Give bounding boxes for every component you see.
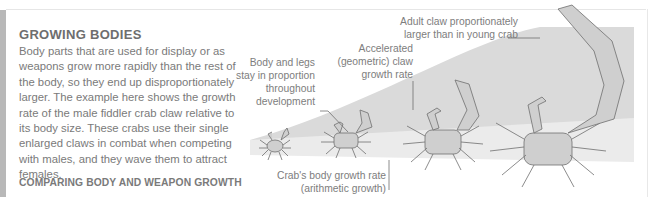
label-line: Accelerated [337, 42, 413, 55]
label-body-growth: Crab's body growth rate (arithmetic grow… [277, 169, 386, 195]
crab-growth-diagram [0, 0, 656, 197]
label-line: Crab's body growth rate [277, 169, 386, 182]
label-line: throughout [236, 82, 315, 95]
label-adult-claw: Adult claw proportionately larger than i… [400, 15, 518, 41]
label-line: development [236, 95, 315, 108]
label-accelerated-growth: Accelerated (geometric) claw growth rate [337, 42, 413, 81]
label-line: stay in proportion [236, 69, 315, 82]
label-line: growth rate [337, 68, 413, 81]
label-line: Adult claw proportionately [400, 15, 518, 28]
label-line: (arithmetic growth) [277, 182, 386, 195]
label-line: larger than in young crab [400, 28, 518, 41]
label-line: (geometric) claw [337, 55, 413, 68]
label-body-legs: Body and legs stay in proportion through… [236, 56, 315, 108]
label-line: Body and legs [236, 56, 315, 69]
